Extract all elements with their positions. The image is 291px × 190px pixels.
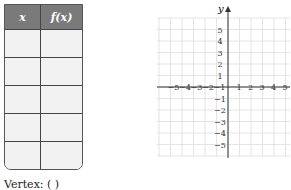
svg-text:1: 1 (237, 83, 242, 92)
svg-text:3: 3 (260, 83, 265, 92)
svg-text:2: 2 (248, 83, 253, 92)
svg-text:−5: −5 (214, 141, 226, 150)
svg-text:−1: −1 (214, 95, 226, 104)
svg-text:−3: −3 (214, 118, 226, 127)
svg-text:1: 1 (217, 72, 222, 81)
svg-text:4: 4 (271, 83, 276, 92)
svg-text:−2: −2 (202, 83, 214, 92)
svg-text:3: 3 (217, 49, 222, 58)
svg-text:4: 4 (217, 37, 222, 46)
coordinate-grid: y −5−4−3−2−11234554321−1−2−3−4−5 (0, 0, 291, 190)
svg-text:5: 5 (217, 26, 222, 35)
svg-text:−2: −2 (214, 106, 226, 115)
svg-text:−4: −4 (214, 129, 226, 138)
svg-text:5: 5 (283, 83, 288, 92)
svg-text:−1: −1 (214, 83, 226, 92)
svg-text:−3: −3 (191, 83, 203, 92)
y-axis-arrow-icon (225, 6, 231, 12)
svg-text:2: 2 (217, 60, 222, 69)
y-axis-label: y (217, 3, 224, 14)
svg-text:−5: −5 (168, 83, 180, 92)
svg-text:−4: −4 (179, 83, 191, 92)
